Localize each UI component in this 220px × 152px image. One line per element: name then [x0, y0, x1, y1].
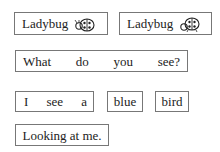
ladybug-card-1[interactable]: Ladybug — [14, 12, 108, 35]
word-card-bird[interactable]: bird — [155, 91, 189, 112]
ladybug-card-2[interactable]: Ladybug — [119, 12, 212, 35]
word-card-blue[interactable]: blue — [107, 91, 143, 112]
sentence-i-see-a[interactable]: I see a — [15, 91, 94, 112]
word: blue — [114, 95, 136, 108]
ladybug-icon — [179, 16, 201, 32]
word: see? — [158, 55, 180, 68]
ladybug-icon — [74, 16, 96, 32]
word: What — [23, 55, 51, 68]
sentence-text: Looking at me. — [22, 129, 101, 142]
sentence-what-do-you-see[interactable]: What do you see? — [15, 50, 188, 72]
sentence-looking-at-me[interactable]: Looking at me. — [15, 124, 109, 146]
ladybug-label: Ladybug — [22, 17, 68, 30]
word: do — [76, 55, 89, 68]
word: you — [113, 55, 133, 68]
word: bird — [162, 95, 183, 108]
word: see — [46, 95, 63, 108]
word: I — [24, 95, 28, 108]
ladybug-label: Ladybug — [127, 17, 173, 30]
word: a — [81, 95, 87, 108]
